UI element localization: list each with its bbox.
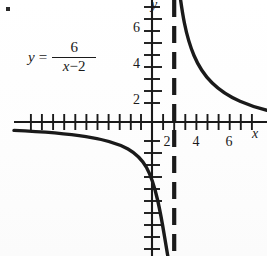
curve-right-branch bbox=[181, 0, 267, 110]
y-tick-label-2: 2 bbox=[126, 92, 140, 108]
x-axis-ticks bbox=[31, 114, 252, 130]
equation-equals-sign: = bbox=[39, 50, 47, 65]
equation-label: y = 6 x−2 bbox=[28, 40, 96, 75]
equation-fraction: 6 x−2 bbox=[52, 40, 96, 75]
y-tick-label-4: 4 bbox=[126, 56, 140, 72]
function-graph bbox=[0, 0, 267, 256]
y-axis-label: y bbox=[151, 0, 157, 13]
x-axis-label: x bbox=[252, 126, 258, 142]
x-tick-label-2: 2 bbox=[160, 134, 174, 150]
y-tick-label-6: 6 bbox=[126, 20, 140, 36]
equation-denominator: x−2 bbox=[60, 58, 89, 75]
equation-numerator: 6 bbox=[65, 40, 83, 57]
x-tick-label-6: 6 bbox=[222, 134, 236, 150]
figure-canvas: y = 6 x−2 y x 6 4 2 2 4 6 bbox=[0, 0, 267, 256]
denominator-number: 2 bbox=[78, 58, 86, 74]
denominator-operator: − bbox=[69, 58, 77, 74]
equation-lhs: y bbox=[28, 50, 35, 65]
x-tick-label-4: 4 bbox=[189, 134, 203, 150]
